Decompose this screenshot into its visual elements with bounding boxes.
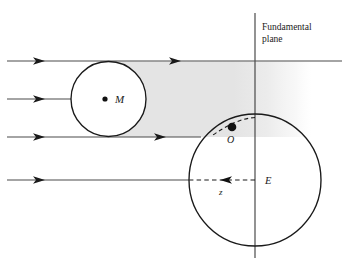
fundamental-plane-label-line2: plane: [262, 34, 283, 44]
fundamental-plane-label-line1: Fundamental: [262, 22, 312, 32]
observer-dot: [228, 123, 237, 132]
observer-label: O: [227, 134, 234, 145]
z-distance-arrow: [190, 176, 255, 184]
body-m-center-dot: [102, 96, 107, 101]
occultation-diagram: Fundamental plane M O E z: [0, 0, 345, 267]
light-ray-4: [7, 176, 190, 184]
light-ray-2: [7, 95, 72, 103]
z-distance-label: z: [218, 187, 223, 197]
body-m-label: M: [114, 93, 125, 105]
diagram-canvas: Fundamental plane M O E z: [0, 0, 345, 267]
observer-point-o: [228, 123, 237, 132]
body-e-label: E: [264, 175, 272, 186]
body-m-circle: [71, 62, 146, 137]
